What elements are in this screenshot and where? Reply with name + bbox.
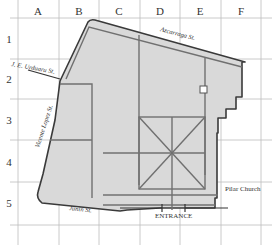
marker-square (200, 86, 207, 93)
site-map: A B C D E F 1 2 3 4 5 Azcarraga St. J. E… (0, 0, 276, 245)
column-label: E (197, 5, 204, 17)
church-block (38, 20, 246, 211)
column-label: F (238, 5, 244, 17)
row-label: 5 (6, 197, 12, 209)
church-label: Pilar Church (225, 185, 261, 193)
column-labels: A B C D E F (34, 5, 244, 17)
row-label: 1 (6, 33, 12, 45)
street-label-junin: Junin St. (69, 204, 93, 213)
row-label: 3 (6, 114, 12, 126)
entrance-label: ENTRANCE (155, 212, 192, 220)
street-label-urduaru: J. E. Urduaru St. (11, 60, 56, 75)
row-label: 2 (6, 73, 12, 85)
column-label: C (115, 5, 122, 17)
column-label: A (34, 5, 42, 17)
row-label: 4 (6, 156, 12, 168)
column-label: D (156, 5, 164, 17)
column-label: B (75, 5, 82, 17)
